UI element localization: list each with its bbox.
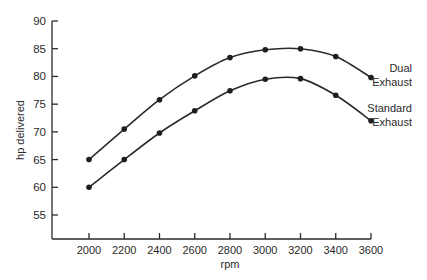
y-tick-label: 65 bbox=[33, 154, 46, 166]
y-tick-label: 85 bbox=[33, 43, 46, 55]
x-tick-label: 3200 bbox=[288, 244, 312, 256]
data-point bbox=[298, 46, 304, 52]
series-layer: DualExhaustStandardExhaust bbox=[86, 46, 412, 190]
y-tick-label: 90 bbox=[33, 15, 46, 27]
series-label: Standard bbox=[367, 102, 412, 114]
data-point bbox=[192, 73, 198, 79]
data-point bbox=[86, 184, 92, 190]
series-label: Exhaust bbox=[372, 76, 412, 88]
y-tick-label: 60 bbox=[33, 181, 46, 193]
x-tick-label: 2200 bbox=[112, 244, 136, 256]
series-label: Dual bbox=[389, 62, 412, 74]
x-tick-label: 2400 bbox=[147, 244, 171, 256]
line-chart: 5560657075808590 20002200240026002800300… bbox=[0, 0, 427, 280]
data-point bbox=[86, 157, 92, 163]
data-point bbox=[262, 76, 268, 82]
x-tick-label: 2600 bbox=[183, 244, 207, 256]
data-point bbox=[121, 157, 127, 163]
x-tick-label: 2000 bbox=[77, 244, 101, 256]
y-tick-label: 55 bbox=[33, 209, 46, 221]
series-line bbox=[89, 48, 371, 159]
y-axis: 5560657075808590 bbox=[33, 15, 58, 239]
y-tick-label: 80 bbox=[33, 70, 46, 82]
x-axis-label: rpm bbox=[221, 258, 240, 270]
x-tick-label: 3400 bbox=[324, 244, 348, 256]
x-axis: 200022002400260028003000320034003600 bbox=[52, 233, 383, 256]
x-tick-label: 3000 bbox=[253, 244, 277, 256]
data-point bbox=[227, 55, 233, 61]
y-tick-label: 70 bbox=[33, 126, 46, 138]
series-dual-exhaust: DualExhaust bbox=[86, 46, 412, 162]
data-point bbox=[192, 108, 198, 114]
y-tick-label: 75 bbox=[33, 98, 46, 110]
series-label: Exhaust bbox=[372, 116, 412, 128]
data-point bbox=[333, 92, 339, 98]
y-axis-label: hp delivered bbox=[14, 100, 26, 160]
series-standard-exhaust: StandardExhaust bbox=[86, 76, 412, 190]
data-point bbox=[298, 76, 304, 82]
data-point bbox=[333, 54, 339, 60]
data-point bbox=[157, 130, 163, 136]
x-tick-label: 2800 bbox=[218, 244, 242, 256]
x-tick-label: 3600 bbox=[359, 244, 383, 256]
data-point bbox=[121, 126, 127, 132]
data-point bbox=[262, 47, 268, 53]
data-point bbox=[227, 88, 233, 94]
data-point bbox=[157, 97, 163, 103]
